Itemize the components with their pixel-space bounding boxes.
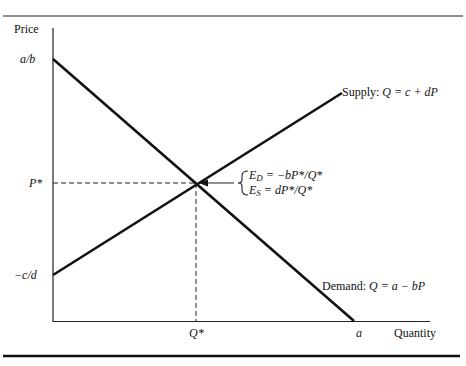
x-axis-label: Quantity: [394, 326, 436, 340]
x-tick-a: a: [356, 326, 362, 340]
elasticity-supply: ES = dP*/Q*: [248, 183, 312, 198]
demand-label: Demand: Q = a − bP: [322, 279, 426, 293]
x-tick-q-star: Q*: [189, 326, 204, 340]
supply-demand-diagram: Price Quantity a/b P* −c/d Q* a Supply: …: [0, 0, 466, 366]
y-tick-a-over-b: a/b: [20, 52, 35, 66]
y-tick-p-star: P*: [28, 176, 42, 190]
y-axis-label: Price: [14, 22, 39, 36]
supply-label: Supply: Q = c + dP: [342, 85, 439, 99]
elasticity-demand: ED = −bP*/Q*: [248, 168, 322, 183]
y-tick-neg-c-over-d: −c/d: [14, 268, 38, 282]
brace-icon: [238, 171, 248, 195]
